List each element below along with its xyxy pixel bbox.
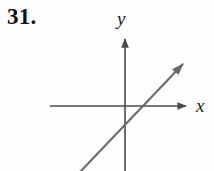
coordinate-plane-graphic <box>0 0 214 171</box>
figure-panel: 31. y x <box>0 0 214 171</box>
graphed-line <box>80 64 183 171</box>
y-axis-label: y <box>117 9 125 28</box>
x-axis-label: x <box>196 96 204 115</box>
